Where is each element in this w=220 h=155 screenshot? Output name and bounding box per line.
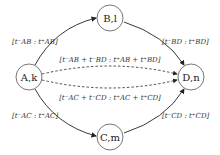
label-a-d-via-c: [t⁻AC + t⁻CD : t⁺AC + t⁺CD] xyxy=(59,94,161,102)
edge-a-d-via-c xyxy=(42,80,177,88)
temporal-graph-diagram: A,k B,l C,m D,n [t⁻AB : t⁺AB] [t⁻BD : t⁺… xyxy=(0,0,220,155)
node-d: D,n xyxy=(178,64,204,90)
svg-text:C,m: C,m xyxy=(100,132,120,143)
edge-a-d-via-b xyxy=(42,66,177,74)
label-b-d: [t⁻BD : t⁺BD] xyxy=(162,38,209,46)
node-b: B,l xyxy=(97,5,123,31)
node-a: A,k xyxy=(16,64,42,90)
label-a-c: [t⁻AC : t⁺AC] xyxy=(12,112,58,120)
svg-text:B,l: B,l xyxy=(103,13,117,24)
svg-text:A,k: A,k xyxy=(20,72,38,83)
svg-text:D,n: D,n xyxy=(182,72,200,83)
diagram-svg: A,k B,l C,m D,n [t⁻AB : t⁺AB] [t⁻BD : t⁺… xyxy=(0,0,220,155)
label-a-d-via-b: [t⁻AB + t⁻BD : t⁺AB + t⁺BD] xyxy=(60,56,161,64)
label-a-b: [t⁻AB : t⁺AB] xyxy=(12,38,58,46)
label-c-d: [t⁻CD : t⁺CD] xyxy=(162,112,209,120)
node-c: C,m xyxy=(97,124,123,150)
